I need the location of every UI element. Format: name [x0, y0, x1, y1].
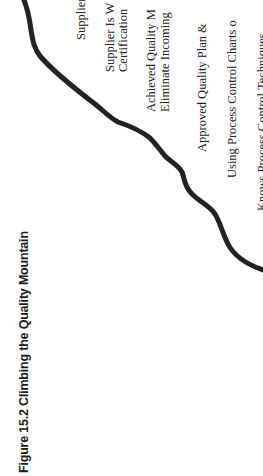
label-achieved-quality: Achieved Quality M [145, 9, 158, 112]
label-knows-process-control: Knows Process Control Techniques [256, 33, 263, 211]
label-supplier-is: Supplier Is W [104, 3, 117, 72]
label-eliminate-incoming: Eliminate Incoming [159, 12, 172, 112]
label-supplier: Supplier [75, 0, 88, 40]
label-using-process-control: Using Process Control Charts o [226, 20, 239, 178]
quality-mountain-curve [0, 0, 263, 476]
label-approved-quality-plan: Approved Quality Plan & [196, 23, 209, 152]
label-certification: Certification [117, 9, 130, 72]
